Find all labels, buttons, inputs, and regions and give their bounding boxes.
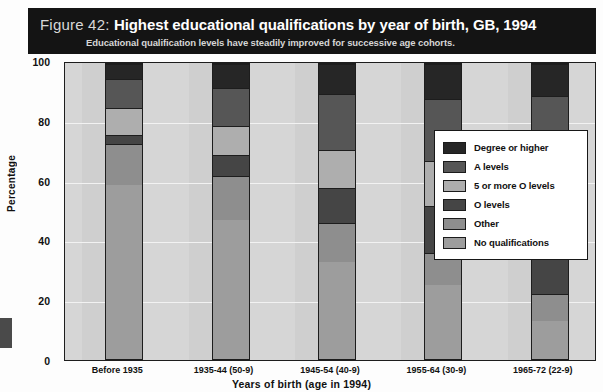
legend-item[interactable]: 5 or more O levels <box>443 176 579 195</box>
y-axis-tick: 0 <box>0 355 56 367</box>
chart-legend: Degree or higherA levels5 or more O leve… <box>434 130 588 260</box>
figure-title-line: Figure 42: Highest educational qualifica… <box>40 16 536 34</box>
bar-segment[interactable] <box>213 155 249 176</box>
legend-rows: Degree or higherA levels5 or more O leve… <box>443 138 579 252</box>
bar-segment[interactable] <box>106 108 142 135</box>
bar-segment[interactable] <box>319 262 355 359</box>
figure-number: Figure 42: <box>40 16 110 33</box>
legend-item[interactable]: O levels <box>443 195 579 214</box>
bar-3[interactable] <box>318 63 356 360</box>
legend-swatch-icon <box>443 218 466 230</box>
bar-segment[interactable] <box>106 135 142 144</box>
bar-segment[interactable] <box>213 176 249 220</box>
bar-segment[interactable] <box>106 144 142 185</box>
legend-item[interactable]: Other <box>443 214 579 233</box>
bar-segment[interactable] <box>532 321 568 359</box>
bar-1[interactable] <box>105 63 143 360</box>
bar-segment[interactable] <box>425 285 461 359</box>
y-axis-tick: 100 <box>0 56 56 68</box>
legend-swatch-icon <box>443 237 466 249</box>
bar-segment[interactable] <box>532 294 568 321</box>
legend-label: No qualifications <box>474 237 549 248</box>
scan-edge-artifact <box>0 318 12 348</box>
legend-swatch-icon <box>443 142 466 154</box>
bar-segment[interactable] <box>532 64 568 96</box>
legend-swatch-icon <box>443 199 466 211</box>
legend-item[interactable]: Degree or higher <box>443 138 579 157</box>
figure-title: Highest educational qualifications by ye… <box>114 16 536 33</box>
legend-label: Other <box>474 218 499 229</box>
figure-title-banner: Figure 42: Highest educational qualifica… <box>28 8 596 54</box>
figure-subtitle: Educational qualification levels have st… <box>86 37 455 48</box>
y-axis-tick: 20 <box>0 295 56 307</box>
legend-label: 5 or more O levels <box>474 180 555 191</box>
x-axis-tick-2: 1935-44 (50-9) <box>164 365 284 375</box>
bar-segment[interactable] <box>213 220 249 359</box>
x-axis-title: Years of birth (age in 1994) <box>0 378 603 390</box>
bar-segment[interactable] <box>213 126 249 156</box>
figure-root: Figure 42: Highest educational qualifica… <box>0 0 603 392</box>
y-axis-tick: 60 <box>0 176 56 188</box>
bar-segment[interactable] <box>106 185 142 359</box>
legend-swatch-icon <box>443 180 466 192</box>
y-axis-tick: 80 <box>0 116 56 128</box>
legend-label: A levels <box>474 161 509 172</box>
bar-segment[interactable] <box>319 94 355 150</box>
y-axis-tick: 40 <box>0 235 56 247</box>
bar-segment[interactable] <box>425 64 461 99</box>
x-axis-tick-5: 1965-72 (22-9) <box>483 365 603 375</box>
bar-2[interactable] <box>212 63 250 360</box>
x-axis-tick-1: Before 1935 <box>57 365 177 375</box>
x-axis-tick-3: 1945-54 (40-9) <box>270 365 390 375</box>
bar-segment[interactable] <box>213 64 249 88</box>
bar-segment[interactable] <box>319 64 355 94</box>
legend-item[interactable]: A levels <box>443 157 579 176</box>
legend-swatch-icon <box>443 161 466 173</box>
bar-segment[interactable] <box>213 88 249 126</box>
legend-label: Degree or higher <box>474 142 548 153</box>
bar-segment[interactable] <box>319 223 355 261</box>
x-axis-tick-4: 1955-64 (30-9) <box>376 365 496 375</box>
bar-segment[interactable] <box>319 188 355 223</box>
bar-segment[interactable] <box>106 79 142 109</box>
bar-segment[interactable] <box>106 64 142 79</box>
legend-item[interactable]: No qualifications <box>443 233 579 252</box>
legend-label: O levels <box>474 199 510 210</box>
bar-segment[interactable] <box>319 150 355 188</box>
